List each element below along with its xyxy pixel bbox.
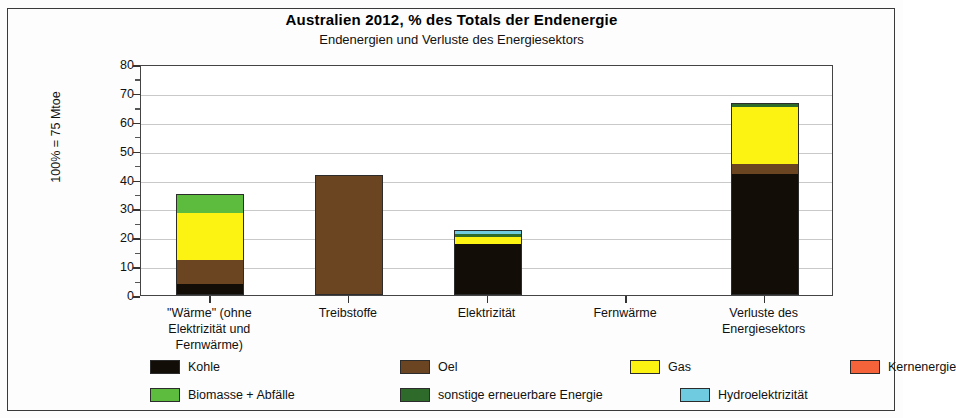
legend-item[interactable]: Gas	[630, 356, 691, 378]
y-tick-label: 10	[100, 260, 134, 274]
plot-area	[140, 65, 833, 296]
bar-segment	[731, 164, 799, 174]
bar-segment	[176, 195, 244, 213]
bar-stack	[731, 103, 799, 295]
x-tick-mark	[348, 296, 350, 303]
y-tick-mark	[133, 296, 140, 298]
gridline	[141, 182, 832, 183]
y-tick-label: 50	[100, 145, 134, 159]
y-tick-mark	[133, 267, 140, 269]
category-label-line: Fernwärme	[556, 305, 695, 321]
y-tick-mark-minor	[135, 253, 140, 254]
y-tick-mark-minor	[135, 224, 140, 225]
y-tick-mark-minor	[135, 108, 140, 109]
bar-stack	[454, 230, 522, 295]
y-tick-label: 0	[100, 289, 134, 303]
legend-swatch	[630, 360, 660, 374]
y-tick-mark	[133, 181, 140, 183]
x-axis-category-label: Elektrizität	[417, 305, 556, 321]
legend-item[interactable]: Kernenergie	[850, 356, 956, 378]
legend-swatch	[400, 360, 430, 374]
bar-segment	[454, 234, 522, 237]
gridline	[141, 153, 832, 154]
y-tick-mark	[133, 123, 140, 125]
x-axis-category-label: Verluste desEnergiesektors	[694, 305, 833, 337]
bar-segment	[454, 230, 522, 233]
chart-subtitle: Endenergien und Verluste des Energiesekt…	[0, 32, 903, 47]
legend-label: Gas	[668, 360, 691, 374]
legend-item[interactable]: Kohle	[150, 356, 220, 378]
y-axis-label: 100% = 75 Mtoe	[49, 62, 63, 212]
gridline	[141, 124, 832, 125]
y-tick-label: 60	[100, 116, 134, 130]
legend-row-2: Biomasse + Abfällesonstige erneuerbare E…	[150, 384, 890, 408]
y-axis-tick-labels: 01020304050607080	[96, 65, 134, 296]
legend-swatch	[850, 360, 880, 374]
gridline	[141, 95, 832, 96]
legend-item[interactable]: Hydroelektrizität	[680, 384, 808, 406]
legend-label: Kernenergie	[888, 360, 956, 374]
bar-segment	[454, 237, 522, 245]
legend-label: sonstige erneuerbare Energie	[438, 388, 603, 402]
bar-stack	[176, 195, 244, 295]
x-tick-mark	[209, 296, 211, 303]
bar-segment	[731, 174, 799, 295]
bar-segment	[454, 244, 522, 295]
y-tick-label: 30	[100, 202, 134, 216]
chart-legend: KohleOelGasKernenergie Biomasse + Abfäll…	[150, 356, 890, 412]
y-tick-label: 70	[100, 87, 134, 101]
y-tick-mark-minor	[135, 282, 140, 283]
legend-swatch	[150, 388, 180, 402]
chart-title: Australien 2012, % des Totals der Endene…	[0, 11, 903, 28]
x-tick-mark	[487, 296, 489, 303]
bar-stack	[315, 175, 383, 295]
x-tick-mark	[625, 296, 627, 303]
x-axis-category-label: "Wärme" (ohneElektrizität undFernwärme)	[140, 305, 279, 353]
y-tick-mark-minor	[135, 166, 140, 167]
legend-label: Hydroelektrizität	[718, 388, 808, 402]
y-tick-mark	[133, 65, 140, 67]
category-label-line: Elektrizität	[417, 305, 556, 321]
legend-item[interactable]: sonstige erneuerbare Energie	[400, 384, 603, 406]
y-tick-label: 20	[100, 231, 134, 245]
bar-segment	[176, 284, 244, 295]
category-label-line: Fernwärme)	[140, 337, 279, 353]
legend-item[interactable]: Biomasse + Abfälle	[150, 384, 295, 406]
y-tick-mark-minor	[135, 195, 140, 196]
category-label-line: Verluste des	[694, 305, 833, 321]
legend-swatch	[400, 388, 430, 402]
legend-label: Oel	[438, 360, 457, 374]
legend-swatch	[680, 388, 710, 402]
category-label-line: "Wärme" (ohne	[140, 305, 279, 321]
y-tick-mark	[133, 238, 140, 240]
bar-segment	[731, 103, 799, 107]
legend-label: Biomasse + Abfälle	[188, 388, 295, 402]
bar-segment	[315, 175, 383, 295]
category-label-line: Treibstoffe	[279, 305, 418, 321]
y-tick-label: 80	[100, 58, 134, 72]
x-axis-category-label: Treibstoffe	[279, 305, 418, 321]
y-tick-mark	[133, 209, 140, 211]
legend-label: Kohle	[188, 360, 220, 374]
y-tick-mark	[133, 94, 140, 96]
legend-row-1: KohleOelGasKernenergie	[150, 356, 890, 380]
y-tick-mark-minor	[135, 137, 140, 138]
category-label-line: Elektrizität und	[140, 321, 279, 337]
x-axis-category-label: Fernwärme	[556, 305, 695, 321]
bar-segment	[176, 194, 244, 195]
x-tick-mark	[764, 296, 766, 303]
gridline	[141, 210, 832, 211]
legend-item[interactable]: Oel	[400, 356, 457, 378]
bar-segment	[176, 260, 244, 284]
legend-swatch	[150, 360, 180, 374]
bar-segment	[176, 213, 244, 259]
bar-segment	[731, 107, 799, 164]
y-tick-label: 40	[100, 174, 134, 188]
category-label-line: Energiesektors	[694, 321, 833, 337]
y-tick-mark	[133, 152, 140, 154]
y-tick-mark-minor	[135, 79, 140, 80]
